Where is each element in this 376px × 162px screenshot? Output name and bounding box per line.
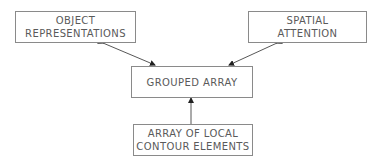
- node-label-line: GROUPED ARRAY: [147, 76, 238, 89]
- edge-grouped-spatial: [229, 43, 277, 65]
- node-object-representations: OBJECT REPRESENTATIONS: [15, 11, 136, 43]
- node-spatial-attention: SPATIAL ATTENTION: [248, 11, 367, 43]
- node-label-line: ARRAY OF LOCAL: [148, 127, 239, 140]
- edge-grouped-object: [103, 43, 155, 65]
- node-label-line: CONTOUR ELEMENTS: [136, 140, 249, 153]
- node-label-line: SPATIAL: [286, 14, 328, 27]
- node-label-line: OBJECT: [56, 14, 96, 27]
- node-array-of-local-contour-elements: ARRAY OF LOCAL CONTOUR ELEMENTS: [133, 124, 253, 156]
- node-label-line: ATTENTION: [278, 27, 338, 40]
- node-grouped-array: GROUPED ARRAY: [131, 66, 253, 98]
- node-label-line: REPRESENTATIONS: [25, 27, 126, 40]
